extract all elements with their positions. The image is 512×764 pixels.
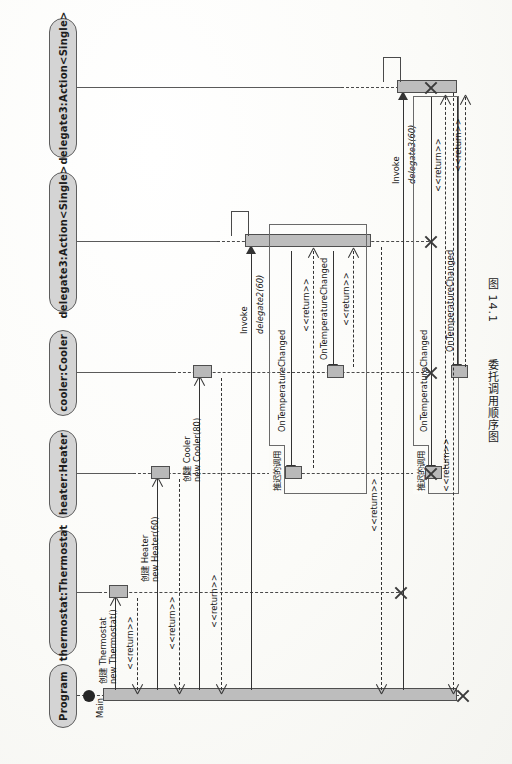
activation-heater-create <box>151 466 170 479</box>
message-label-create-cooler: 创建 Cooler new Cooler(80) <box>183 418 202 482</box>
terminator-delegate3 <box>423 80 439 96</box>
lifeline-label-heater: heater:Heater <box>58 433 69 515</box>
start-dot <box>83 690 95 702</box>
lifeline-label-delegate2: delegate3:Action<Single> <box>58 165 69 318</box>
message-label-return-heater: <<return>> <box>167 596 177 650</box>
combined-fragment-1-label: 推迟的调用 <box>269 445 285 494</box>
lifeline-head-thermostat[interactable]: thermostat:Thermostat <box>49 530 77 656</box>
arrow-return-heater <box>174 684 184 694</box>
message-label-return-delegate2: <<return>> <box>369 478 379 532</box>
activation-cooler-create <box>193 365 212 378</box>
terminator-thermostat <box>393 585 409 601</box>
start-label: Main <box>95 698 105 718</box>
message-line-ontempchanged-heater-1 <box>291 251 292 468</box>
lifeline-line-thermostat <box>99 592 399 593</box>
arrow-return-heater-cb1 <box>308 249 318 259</box>
message-line-ontempchanged-cooler-1 <box>333 251 334 367</box>
lifeline-label-delegate3: delegate3:Action<Single> <box>58 11 69 164</box>
figure-caption-title: 委托调用顺序图 <box>486 359 499 443</box>
activation-cooler-cb1 <box>327 365 344 378</box>
lifeline-head-cooler[interactable]: cooler:Cooler <box>49 330 77 416</box>
arrow-return-thermostat <box>132 684 142 694</box>
message-label-ontempchanged-heater-1: OnTemperatureChanged <box>277 330 287 432</box>
selfcall-bracket-delegate3 <box>383 57 401 82</box>
arrow-return-cooler <box>216 684 226 694</box>
lifeline-head-delegate2[interactable]: delegate3:Action<Single> <box>49 172 77 312</box>
arrow-create-thermostat <box>110 597 120 607</box>
lifeline-label-thermostat: thermostat:Thermostat <box>58 525 69 662</box>
message-label-return-heater-cb2: <<return>> <box>433 138 443 192</box>
terminator-heater <box>423 466 439 482</box>
message-label-invoke-delegate2-b: delegate2(60) <box>255 275 265 334</box>
message-line-return-heater-cb1 <box>313 251 314 468</box>
message-line-ontempchanged-heater-2 <box>431 97 432 468</box>
arrow-return-delegate2 <box>376 684 386 694</box>
lifeline-label-program: Program <box>58 671 69 721</box>
message-label-return-delegate3: <<return>> <box>441 438 451 492</box>
figure-caption-number: 图 14.1 <box>486 278 499 323</box>
activation-thermostat <box>109 585 128 598</box>
message-label-create-cooler-code: new Cooler(80) <box>193 418 203 482</box>
message-label-ontempchanged-cooler-1: OnTemperatureChanged <box>319 258 329 360</box>
lifeline-line-cooler-solid <box>77 372 173 373</box>
arrow-return-cooler-cb2 <box>460 96 470 106</box>
lifeline-line-delegate3-solid <box>77 87 341 88</box>
message-label-return-heater-cb1: <<return>> <box>301 278 311 332</box>
message-label-invoke-delegate3-a: Invoke <box>391 156 401 184</box>
arrow-create-heater <box>152 478 162 488</box>
message-label-invoke-delegate2-a: Invoke <box>239 306 249 334</box>
message-line-invoke-delegate2 <box>251 247 252 690</box>
message-line-create-heater <box>157 479 158 690</box>
figure-caption: 图 14.1 委托调用顺序图 <box>464 278 500 443</box>
terminator-program <box>455 688 471 704</box>
sequence-diagram-rotated-canvas: Program thermostat:Thermostat heater:Hea… <box>41 32 471 732</box>
selfcall-bracket-delegate2 <box>231 211 249 236</box>
terminator-delegate2 <box>423 234 439 250</box>
message-label-return-cooler-cb2: <<return>> <box>453 118 463 172</box>
lifeline-head-delegate3[interactable]: delegate3:Action<Single> <box>49 18 77 158</box>
arrow-return-cooler-cb1 <box>348 249 358 259</box>
message-label-return-cooler: <<return>> <box>209 574 219 628</box>
message-line-return-cooler-cb1 <box>353 251 354 367</box>
message-label-create-thermostat: 创建 Thermostat new Thermostat() <box>99 609 118 684</box>
sequence-diagram: Program thermostat:Thermostat heater:Hea… <box>41 32 471 732</box>
message-line-return-cooler <box>221 378 222 690</box>
lifeline-line-delegate2-solid <box>77 241 217 242</box>
lifeline-line-thermostat-solid <box>77 592 99 593</box>
terminator-cooler <box>423 365 439 381</box>
message-label-create-heater-code: new Heater(60) <box>151 516 161 582</box>
message-line-return-delegate3 <box>453 93 454 690</box>
lifeline-head-heater[interactable]: heater:Heater <box>49 430 77 518</box>
message-label-create-thermostat-code: new Thermostat() <box>109 609 119 684</box>
message-line-return-heater <box>179 479 180 690</box>
message-line-return-thermostat <box>137 598 138 690</box>
arrow-return-heater-cb2 <box>440 96 450 106</box>
arrow-create-cooler <box>194 377 204 387</box>
message-line-return-delegate2 <box>381 247 382 690</box>
lifeline-line-heater-solid <box>77 473 133 474</box>
message-label-return-thermostat: <<return>> <box>125 616 135 670</box>
lifeline-head-program[interactable]: Program <box>49 664 77 728</box>
lifeline-label-cooler: cooler:Cooler <box>58 334 69 412</box>
message-label-create-heater: 创建 Heater new Heater(60) <box>141 516 160 582</box>
message-label-return-cooler-cb1: <<return>> <box>341 272 351 326</box>
activation-heater-cb1 <box>285 466 302 479</box>
